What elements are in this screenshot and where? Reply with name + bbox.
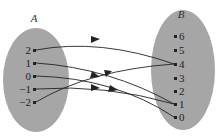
set-a-point	[33, 62, 36, 65]
set-b-point	[174, 103, 177, 106]
set-b-point	[174, 116, 177, 119]
arrowhead-2-to-4	[91, 36, 100, 43]
set-a-element: 0	[26, 70, 32, 82]
set-a-oval	[3, 28, 69, 132]
set-a-element: −2	[19, 96, 31, 108]
set-a-point	[33, 88, 36, 91]
set-b-element: 6	[179, 30, 185, 42]
set-a-point	[33, 49, 36, 52]
set-a-element: 2	[26, 44, 32, 56]
set-b-point	[174, 35, 177, 38]
set-a-point	[33, 101, 36, 104]
set-a-label: A	[30, 12, 38, 24]
set-b-element: 1	[179, 98, 185, 110]
set-b-point	[174, 63, 177, 66]
set-a-element: −1	[19, 83, 31, 95]
set-b-point	[174, 90, 177, 93]
set-b-element: 4	[179, 58, 185, 70]
arrowhead-0-to-0	[108, 85, 118, 92]
mapping-diagram: A B 2 1 0 −1 −2 6 5 4 3 2 1 0	[0, 0, 217, 137]
set-b-point	[174, 49, 177, 52]
set-b-element: 0	[179, 111, 185, 123]
set-b-label: B	[178, 8, 185, 20]
set-b-element: 2	[179, 85, 185, 97]
set-b-element: 3	[179, 72, 185, 84]
set-a-element: 1	[26, 57, 32, 69]
set-b-element: 5	[179, 44, 185, 56]
set-b-point	[174, 77, 177, 80]
set-a-point	[33, 75, 36, 78]
